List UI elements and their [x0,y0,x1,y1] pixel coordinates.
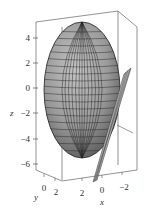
ellipsoid-surface [40,22,124,158]
z-tick-minus6: −6 [20,159,30,169]
z-tick-minus2: −2 [20,108,30,118]
x-tick-0: 0 [100,185,105,195]
y-tick-2: 2 [54,187,59,197]
x-tick-2: 2 [80,188,85,198]
z-tick-4: 4 [26,33,31,43]
z-axis [33,38,38,164]
x-tick-minus2: −2 [119,182,129,192]
y-tick-0: 0 [42,183,47,193]
z-tick-2: 2 [26,58,31,68]
x-axis-label: x [99,197,104,207]
y-axis-label: y [33,192,38,202]
z-tick-minus4: −4 [20,134,30,144]
z-tick-0: 0 [26,83,31,93]
z-axis-label: z [9,108,14,118]
y-axis: 0 2 y [33,174,58,202]
surface-plot: 4 2 0 −2 −4 −6 z 0 2 y 2 0 −2 x [0,0,149,219]
z-tick-labels: 4 2 0 −2 −4 −6 z [9,33,31,169]
